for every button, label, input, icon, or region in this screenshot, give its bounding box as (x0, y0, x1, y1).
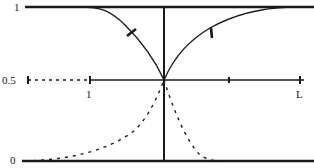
y-label-1: 1 (14, 2, 20, 13)
falling-dashed-curve-right (164, 80, 225, 161)
diagram-canvas (0, 0, 314, 168)
falling-dashed-curve-left (25, 80, 164, 161)
rising-curve-left (80, 7, 164, 80)
cross-mark (211, 28, 212, 38)
rising-curve-right (164, 7, 290, 80)
x-label-1: 1 (86, 89, 92, 100)
x-label-L: L (296, 89, 303, 100)
y-label-0-5: 0.5 (2, 75, 16, 86)
y-label-0: 0 (10, 155, 16, 166)
